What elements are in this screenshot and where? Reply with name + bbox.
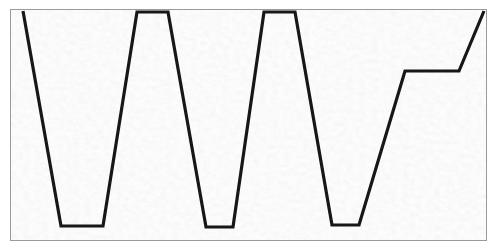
profile-trace-svg [11,10,487,241]
profile-trace-polyline [23,11,484,227]
figure-frame [10,9,487,241]
figure-root [0,0,497,251]
